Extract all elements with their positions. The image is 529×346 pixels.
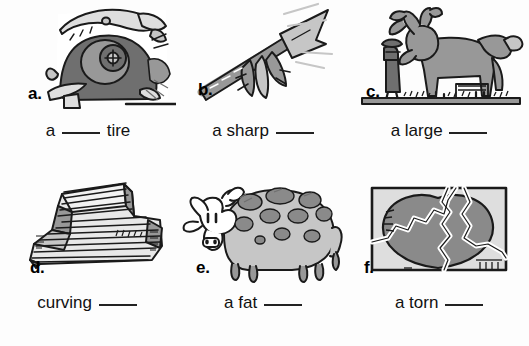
answer-blank-d[interactable] bbox=[99, 292, 137, 306]
caption-a: a tire bbox=[0, 120, 176, 141]
arrow-icon bbox=[176, 0, 352, 118]
answer-blank-c[interactable] bbox=[449, 120, 487, 134]
answer-blank-e[interactable] bbox=[264, 292, 302, 306]
answer-blank-b[interactable] bbox=[276, 120, 314, 134]
caption-d-before: curving bbox=[37, 293, 92, 312]
caption-e: a fat bbox=[176, 292, 352, 313]
torn-picture-icon bbox=[352, 172, 528, 290]
item-marker-e: e. bbox=[196, 258, 210, 278]
caption-d: curving bbox=[0, 292, 176, 313]
item-marker-b: b. bbox=[198, 80, 213, 100]
caption-b: a sharp bbox=[176, 120, 352, 141]
flat-tire-icon bbox=[0, 0, 176, 118]
caption-e-before: a fat bbox=[224, 293, 257, 312]
worksheet-item-d: curving bbox=[0, 172, 176, 345]
item-marker-f: f. bbox=[364, 258, 374, 278]
worksheet-item-f: a torn bbox=[352, 172, 528, 345]
caption-a-before: a bbox=[46, 121, 55, 140]
stairs-icon bbox=[0, 172, 176, 290]
worksheet-page: a tire a. bbox=[0, 0, 529, 346]
worksheet-item-a: a tire bbox=[0, 0, 176, 173]
caption-f: a torn bbox=[352, 292, 528, 313]
answer-blank-f[interactable] bbox=[445, 292, 483, 306]
caption-c: a large bbox=[352, 120, 528, 141]
caption-a-after: tire bbox=[107, 121, 131, 140]
item-marker-c: c. bbox=[366, 82, 380, 102]
answer-blank-a[interactable] bbox=[62, 120, 100, 134]
caption-b-before: a sharp bbox=[212, 121, 269, 140]
item-marker-d: d. bbox=[30, 258, 45, 278]
item-marker-a: a. bbox=[28, 84, 42, 104]
caption-f-before: a torn bbox=[395, 293, 438, 312]
caption-c-before: a large bbox=[391, 121, 443, 140]
